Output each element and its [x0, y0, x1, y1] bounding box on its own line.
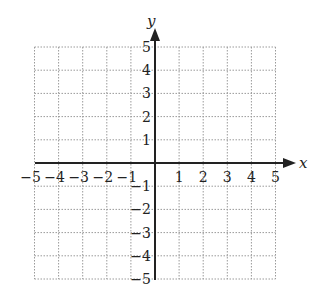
axes — [35, 28, 296, 280]
y-tick-label: 5 — [142, 39, 151, 55]
x-tick-label: −3 — [68, 169, 89, 185]
y-tick-label: 1 — [142, 132, 151, 148]
x-tick-label: 4 — [247, 169, 256, 185]
x-tick-label: −4 — [44, 169, 65, 185]
y-tick-label: −3 — [130, 225, 151, 241]
y-tick-label: 4 — [142, 62, 151, 78]
y-tick-label: 3 — [142, 85, 151, 101]
y-axis-label: y — [146, 12, 156, 30]
x-tick-label: 2 — [199, 169, 208, 185]
x-tick-label: −2 — [92, 169, 113, 185]
x-tick-label: 1 — [175, 169, 184, 185]
x-tick-label: 3 — [223, 169, 232, 185]
x-axis-arrow-icon — [283, 158, 296, 168]
x-tick-label: 5 — [271, 169, 280, 185]
x-tick-label: −5 — [20, 169, 41, 185]
y-tick-label: −4 — [130, 248, 151, 264]
y-tick-label: −5 — [130, 271, 151, 287]
coordinate-plane: x y −5−4−3−2−112345 54321−1−2−3−4−5 — [0, 0, 320, 303]
y-tick-label: 2 — [142, 109, 151, 125]
y-tick-label: −2 — [130, 201, 151, 217]
x-axis-label: x — [299, 154, 308, 172]
y-tick-label: −1 — [130, 178, 151, 194]
